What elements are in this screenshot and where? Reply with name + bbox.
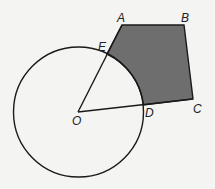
geometry-diagram: A B C D E O [0, 0, 215, 189]
label-C: C [193, 102, 202, 116]
label-O: O [72, 114, 81, 128]
label-E: E [98, 40, 107, 54]
label-B: B [181, 11, 189, 25]
shaded-region [107, 25, 193, 105]
segment-OA [78, 25, 122, 112]
label-A: A [116, 11, 125, 25]
label-D: D [145, 106, 154, 120]
segment-OC [78, 99, 193, 112]
